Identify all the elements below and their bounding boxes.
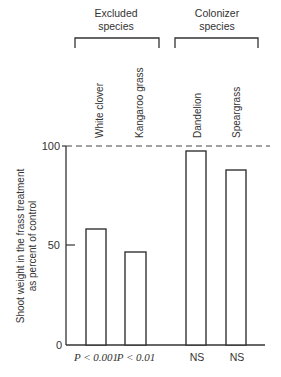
y-tick-label-0: 0 bbox=[56, 339, 62, 351]
significance-kangaroo-grass: P < 0.01 bbox=[116, 351, 156, 363]
group-label-excluded-line1: Excluded bbox=[94, 7, 137, 19]
group-label-excluded-line2: species bbox=[98, 20, 134, 32]
y-tick-label-50: 50 bbox=[48, 239, 60, 251]
category-label-kangaroo-grass: Kangaroo grass bbox=[134, 67, 145, 138]
bar-chart: Excluded species Colonizer species White… bbox=[0, 0, 281, 377]
category-label-dandelion: Dandelion bbox=[192, 93, 203, 138]
bar-kangaroo-grass bbox=[125, 252, 146, 345]
bar-dandelion bbox=[186, 151, 206, 345]
significance-white-clover: P < 0.001 bbox=[73, 351, 118, 363]
significance-speargrass: NS bbox=[230, 351, 245, 363]
group-label-colonizer-line2: species bbox=[199, 20, 235, 32]
bar-speargrass bbox=[226, 170, 246, 345]
y-axis-title-line1: Shoot weight in the frass treatment bbox=[15, 169, 26, 324]
group-bracket-excluded bbox=[75, 38, 159, 48]
category-label-white-clover: White clover bbox=[94, 82, 105, 138]
bar-white-clover bbox=[86, 229, 106, 345]
y-tick-label-100: 100 bbox=[42, 140, 60, 152]
y-axis-title-line2: as percent of control bbox=[27, 201, 38, 292]
group-label-colonizer-line1: Colonizer bbox=[195, 7, 240, 19]
category-label-speargrass: Speargrass bbox=[231, 87, 242, 138]
significance-dandelion: NS bbox=[190, 351, 205, 363]
group-bracket-colonizer bbox=[175, 38, 258, 48]
